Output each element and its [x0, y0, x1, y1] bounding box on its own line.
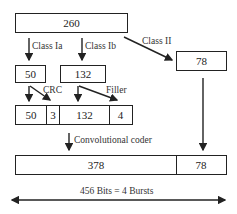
label-convolutional-coder: Convolutional coder — [74, 135, 152, 145]
label-crc: CRC — [43, 85, 62, 95]
coded-row: 50 3 132 4 — [15, 105, 133, 125]
cell-50: 50 — [15, 105, 47, 125]
cell-132: 132 — [59, 105, 110, 125]
box-260: 260 — [15, 13, 128, 33]
cell-378: 378 — [15, 155, 177, 175]
cell-78: 78 — [176, 155, 227, 175]
label-total: 456 Bits = 4 Bursts — [80, 186, 153, 196]
cell-4: 4 — [109, 105, 133, 125]
label-class-ii: Class II — [142, 36, 171, 46]
label-filler: Filler — [106, 85, 127, 95]
box-class-ii: 78 — [176, 51, 227, 71]
box-class-ib: 132 — [60, 65, 106, 83]
box-class-ia: 50 — [15, 65, 46, 83]
output-row: 378 78 — [15, 155, 227, 175]
label-class-ib: Class Ib — [85, 41, 116, 51]
label-class-ia: Class Ia — [32, 41, 62, 51]
